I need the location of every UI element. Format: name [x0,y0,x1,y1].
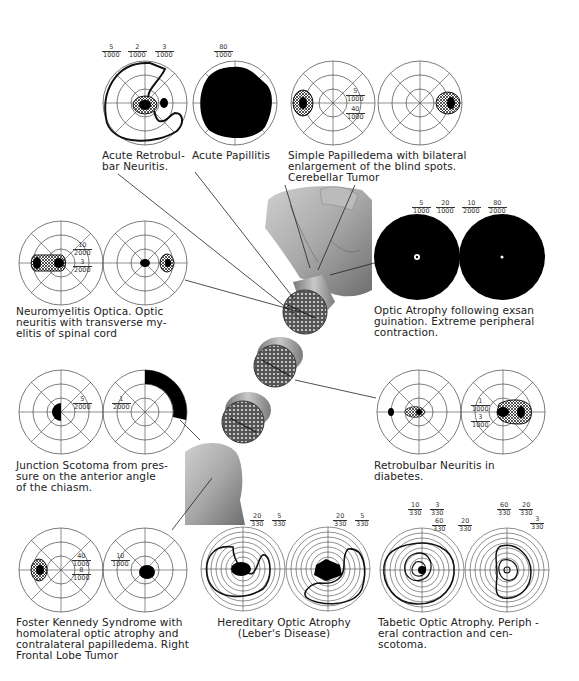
visual-field-neuromyelitis-right [100,218,190,308]
isopter-label: 3330 [430,502,444,516]
isopter-label: 31000 [471,414,490,428]
isopter-label: 31000 [155,44,174,58]
visual-field-foster-kennedy-left [16,525,106,615]
visual-field-optic-atrophy-left [373,213,461,301]
isopter-label: 81000 [72,567,91,581]
caption-simple-papilledema: Simple Papilledema with bilateralenlarge… [288,150,467,183]
visual-field-foster-kennedy-right [100,525,190,615]
visual-field-diabetes-left [374,367,464,457]
visual-field-junction-scotoma-left [16,367,106,457]
isopter-label: 51000 [412,200,431,214]
isopter-label: 60330 [497,502,511,516]
isopter-label: 802000 [488,200,507,214]
visual-field-papilledema-left [288,58,378,148]
isopter-label: 102000 [73,242,92,256]
isopter-label: 401000 [346,106,365,120]
isopter-label: 60330 [432,518,446,532]
caption-foster-kennedy: Foster Kennedy Syndrome withhomolateral … [16,617,189,661]
isopter-label: 11000 [471,398,490,412]
chiasm-specimen [185,443,245,525]
isopter-label: 201000 [436,200,455,214]
isopter-label: 3330 [530,516,544,530]
isopter-label: 20330 [458,518,472,532]
isopter-label: 801000 [214,44,233,58]
caption-tabetic-optic-atrophy: Tabetic Optic Atrophy. Periph -eral cont… [378,617,539,650]
isopter-label: 51000 [346,88,365,102]
isopter-label: 21000 [128,44,147,58]
caption-hereditary-optic-atrophy: Hereditary Optic Atrophy(Leber's Disease… [204,617,364,639]
isopter-label: 102000 [462,200,481,214]
caption-optic-atrophy: Optic Atrophy following exsanguination. … [374,305,534,338]
visual-field-optic-atrophy-right [458,213,546,301]
isopter-label: 10330 [408,502,422,516]
isopter-label: 20330 [333,513,347,527]
visual-field-leber-right [283,524,373,614]
visual-field-neuromyelitis-left [16,218,106,308]
visual-field-junction-scotoma-right [100,367,190,457]
isopter-label: 101000 [111,553,130,567]
caption-retrobulbar-neuritis-diabetes: Retrobulbar Neuritis indiabetes. [374,460,495,482]
caption-acute-retrobulbar-neuritis: Acute Retrobul-bar Neuritis. [102,150,185,172]
visual-field-leber-left [198,524,288,614]
caption-junction-scotoma: Junction Scotoma from pres-sure on the a… [16,460,168,493]
nerve-cross-section-2 [254,337,303,387]
isopter-label: 20330 [519,502,533,516]
isopter-label: 52000 [73,396,92,410]
isopter-label: 32000 [73,259,92,273]
nerve-cross-section-3 [222,392,271,443]
isopter-label: 5330 [355,513,369,527]
isopter-label: 20330 [250,513,264,527]
isopter-label: 5330 [272,513,286,527]
visual-field-tabetic-right [462,525,552,615]
caption-neuromyelitis-optica: Neuromyelitis Optica. Opticneuritis with… [16,306,167,339]
visual-field-acute-papillitis [190,58,280,148]
isopter-label: 51000 [102,44,121,58]
caption-acute-papillitis: Acute Papillitis [192,150,270,161]
visual-field-acute-retrobulbar-neuritis [100,58,190,148]
isopter-label: 401000 [72,553,91,567]
visual-field-tabetic-left [377,525,467,615]
visual-field-papilledema-right [375,58,465,148]
isopter-label: 12000 [112,396,131,410]
